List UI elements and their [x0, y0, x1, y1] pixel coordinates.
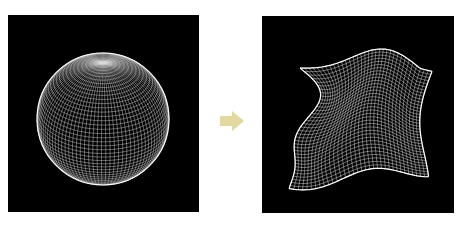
wireframe-sphere — [8, 15, 199, 212]
sphere-panel: Wireframe sphere — [8, 15, 199, 212]
deformed-mesh-panel: Deformed wireframe mesh — [262, 16, 454, 213]
wireframe-deformed-mesh — [262, 16, 454, 213]
right-arrow-icon: transforms into — [220, 111, 244, 131]
